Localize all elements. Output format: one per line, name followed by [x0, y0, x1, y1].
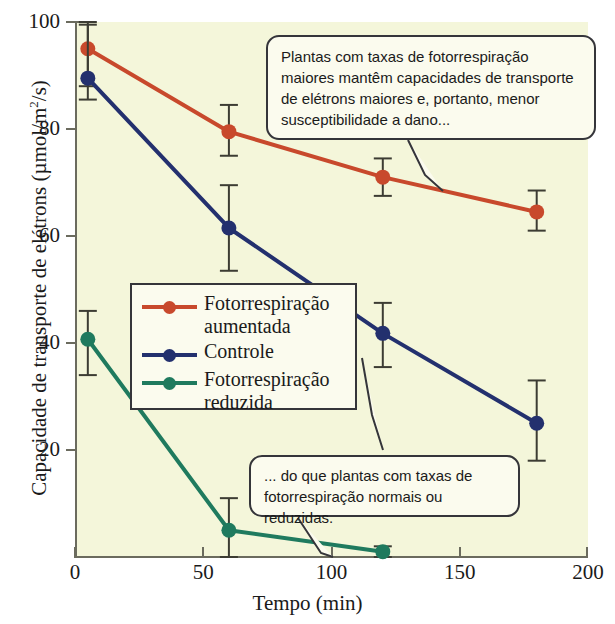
legend-label-0-line1: Fotorrespiração	[204, 292, 330, 314]
legend-dot-2	[163, 377, 176, 390]
chart-figure: 20406080100 050100150200 Fotorrespiração…	[0, 0, 615, 624]
annotation-callout-bottom: ... do que plantas com taxas de fotorres…	[249, 455, 520, 517]
legend-label-2: Fotorrespiração reduzida	[197, 368, 330, 414]
legend-dot-1	[163, 349, 176, 362]
legend-swatch-icon-0	[142, 296, 197, 318]
legend-dot-0	[163, 301, 176, 314]
legend-label-2-line1: Fotorrespiração	[204, 368, 330, 390]
legend-label-0-line2: aumentada	[204, 315, 291, 337]
legend-item-2: Fotorrespiração reduzida	[132, 368, 355, 414]
chart-legend: Fotorrespiração aumentada Controle Fotor…	[130, 283, 357, 410]
legend-item-0: Fotorrespiração aumentada	[132, 292, 355, 338]
annotation-callout-top: Plantas com taxas de fotorrespiração mai…	[266, 35, 596, 140]
legend-label-2-line2: reduzida	[204, 391, 273, 413]
legend-label-1: Controle	[197, 340, 274, 363]
legend-item-1: Controle	[132, 340, 355, 366]
legend-label-1-line1: Controle	[204, 340, 274, 362]
legend-label-0: Fotorrespiração aumentada	[197, 292, 330, 338]
legend-swatch-icon-1	[142, 344, 197, 366]
legend-swatch-icon-2	[142, 372, 197, 394]
x-axis-title: Tempo (min)	[0, 592, 615, 614]
